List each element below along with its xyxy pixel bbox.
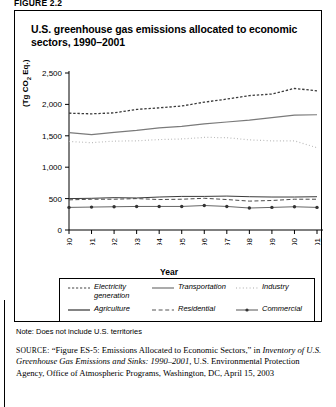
series-marker bbox=[112, 205, 115, 208]
y-tick-label: 1,500 bbox=[42, 132, 63, 141]
figure-root: FIGURE 2.2 U.S. greenhouse gas emissions… bbox=[0, 0, 336, 407]
legend-label: Industry bbox=[262, 283, 314, 292]
series-marker bbox=[270, 206, 273, 209]
x-tick-label: 1990 bbox=[65, 237, 74, 245]
series-line-industry bbox=[69, 137, 317, 147]
legend-swatch-solid-thin-icon bbox=[68, 306, 90, 314]
series-marker bbox=[203, 204, 206, 207]
legend-row-2: Agriculture Residential Commercial bbox=[60, 301, 314, 323]
source-line-1: “Figure ES-5: Emissions Allocated to Eco… bbox=[52, 345, 261, 355]
legend-label: Transportation bbox=[178, 283, 236, 292]
x-tick-label: 1994 bbox=[155, 237, 164, 245]
chart-legend: Electricity generation Transportation In… bbox=[59, 278, 315, 322]
legend-item-agriculture: Agriculture bbox=[60, 305, 152, 314]
x-tick-label: 1996 bbox=[200, 237, 209, 245]
y-tick-label: 2,000 bbox=[42, 100, 63, 109]
series-marker bbox=[67, 206, 70, 209]
x-tick-label: 1993 bbox=[133, 237, 142, 245]
x-tick-label: 1998 bbox=[245, 237, 254, 245]
y-tick-label: 1,000 bbox=[42, 163, 63, 172]
source-block: SOURCE: “Figure ES-5: Emissions Allocate… bbox=[16, 345, 322, 379]
x-tick-label: 1995 bbox=[178, 237, 187, 245]
series-line-agriculture bbox=[69, 196, 317, 199]
legend-item-residential: Residential bbox=[152, 305, 236, 314]
x-tick-label: 1997 bbox=[223, 237, 232, 245]
y-tick-label: 0 bbox=[58, 226, 63, 235]
plot-area: 05001,0001,5002,0002,5001990199119921993… bbox=[15, 63, 323, 245]
chart-svg: 05001,0001,5002,0002,5001990199119921993… bbox=[15, 63, 323, 245]
chart-note: Note: Does not include U.S. territories bbox=[16, 327, 142, 336]
legend-item-industry: Industry bbox=[236, 283, 314, 292]
series-marker bbox=[135, 205, 138, 208]
source-line-3: Programs, Washington, DC, April 15, 2003 bbox=[126, 368, 274, 378]
x-tick-label: 1999 bbox=[268, 237, 277, 245]
series-marker bbox=[225, 205, 228, 208]
x-tick-label: 2001 bbox=[313, 237, 322, 245]
left-side-rule bbox=[4, 300, 5, 407]
series-line-electricity-generation bbox=[69, 88, 317, 113]
source-label: SOURCE: bbox=[16, 346, 49, 355]
x-tick-label: 2000 bbox=[290, 237, 299, 245]
legend-label: Agriculture bbox=[94, 305, 146, 314]
legend-swatch-dashed-icon bbox=[68, 284, 90, 292]
x-tick-label: 1992 bbox=[110, 237, 119, 245]
legend-row-1: Electricity generation Transportation In… bbox=[60, 279, 314, 301]
legend-swatch-dashed-long-icon bbox=[152, 306, 174, 314]
chart-title: U.S. greenhouse gas emissions allocated … bbox=[31, 23, 311, 49]
figure-box: U.S. greenhouse gas emissions allocated … bbox=[14, 10, 322, 322]
series-marker bbox=[248, 206, 251, 209]
legend-swatch-dotted-icon bbox=[236, 284, 258, 292]
series-line-transportation bbox=[69, 115, 317, 135]
x-tick-label: 1991 bbox=[88, 237, 97, 245]
y-tick-label: 500 bbox=[49, 195, 63, 204]
series-marker bbox=[315, 206, 318, 209]
figure-caption: FIGURE 2.2 bbox=[14, 0, 62, 8]
series-marker bbox=[180, 205, 183, 208]
series-marker bbox=[293, 205, 296, 208]
legend-swatch-solid-icon bbox=[152, 284, 174, 292]
series-marker bbox=[157, 205, 160, 208]
legend-swatch-line-marker-icon bbox=[236, 306, 258, 314]
y-tick-label: 2,500 bbox=[42, 69, 63, 78]
series-line-residential bbox=[69, 198, 317, 201]
legend-item-transportation: Transportation bbox=[152, 283, 236, 292]
series-line-commercial bbox=[69, 206, 317, 209]
series-marker bbox=[90, 205, 93, 208]
legend-label: Residential bbox=[178, 305, 236, 314]
legend-item-commercial: Commercial bbox=[236, 305, 314, 314]
legend-label: Electricity generation bbox=[94, 283, 146, 300]
legend-item-electricity-generation: Electricity generation bbox=[60, 283, 152, 300]
legend-label: Commercial bbox=[262, 305, 314, 314]
x-axis-label: Year bbox=[15, 267, 323, 277]
